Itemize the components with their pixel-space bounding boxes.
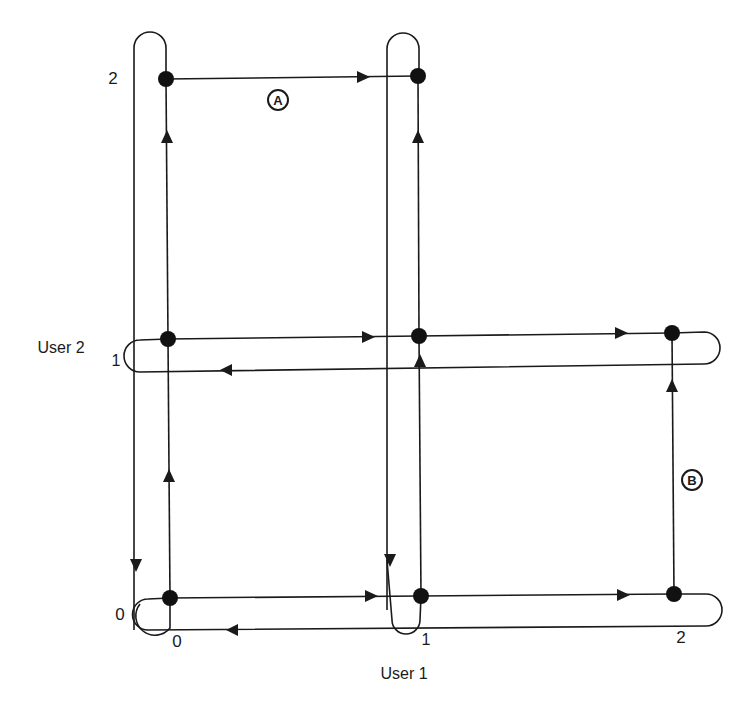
x-tick-2: 2: [676, 628, 685, 647]
annotation-b-label: B: [687, 473, 696, 488]
state-transition-diagram: A B 2 1 0 User 2 0 1 2 User 1: [0, 0, 749, 704]
annotation-a-label: A: [273, 93, 283, 108]
edge-0-0-to-1-0: [170, 590, 421, 602]
y-tick-0: 0: [115, 605, 124, 624]
node-1-1: [411, 328, 427, 344]
x-tick-1: 1: [422, 631, 431, 648]
node-0-2: [158, 71, 174, 87]
edge-0-1-to-0-2: [161, 79, 173, 339]
edge-1-1-to-2-1: [419, 327, 672, 339]
right-arrow-icon: [362, 331, 375, 343]
y-axis-label: User 2: [37, 339, 84, 356]
edge-1-0-to-2-0: [421, 589, 674, 601]
node-0-0: [162, 590, 178, 606]
edge-0-0-to-0-1: [163, 339, 175, 598]
x-tick-0: 0: [172, 632, 181, 651]
node-2-1: [664, 325, 680, 341]
edge-1-1-to-1-2: [412, 76, 424, 336]
node-1-2: [410, 68, 426, 84]
left-arrow-icon: [220, 364, 232, 376]
y-tick-1: 1: [112, 352, 121, 369]
node-2-0: [666, 586, 682, 602]
edge-0-1-to-1-1: [168, 331, 419, 343]
up-arrow-icon: [161, 130, 173, 143]
edge-1-0-to-1-1: [414, 336, 426, 596]
right-arrow-icon: [617, 589, 630, 601]
node-0-1: [160, 331, 176, 347]
up-arrow-icon: [163, 469, 175, 482]
up-arrow-icon: [412, 130, 424, 143]
right-arrow-icon: [365, 590, 378, 602]
edge-0-2-to-1-2: [166, 71, 418, 83]
up-arrow-icon: [414, 354, 426, 367]
right-arrow-icon: [357, 71, 370, 83]
right-arrow-icon: [615, 327, 628, 339]
node-1-0: [413, 588, 429, 604]
user1-state0-vertical-loop: [130, 32, 166, 630]
x-axis-label: User 1: [380, 665, 427, 682]
left-arrow-icon: [226, 624, 238, 636]
down-arrow-icon: [384, 554, 396, 567]
y-tick-2: 2: [108, 69, 117, 88]
up-arrow-icon: [666, 379, 678, 392]
edge-2-0-to-2-1: [666, 333, 678, 594]
annotation-a: A: [268, 90, 288, 110]
annotation-b: B: [682, 470, 702, 490]
down-arrow-icon: [130, 559, 142, 572]
